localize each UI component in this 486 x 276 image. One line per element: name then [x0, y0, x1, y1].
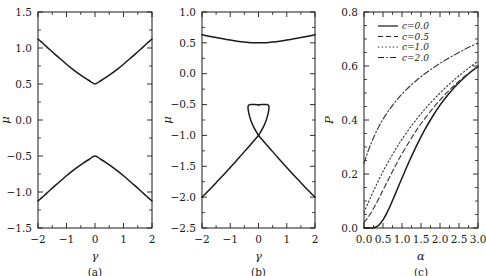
curve-c=0.5: [364, 67, 478, 223]
y-tick-label: 0.0: [15, 114, 32, 126]
y-tick-label: 1.0: [179, 6, 196, 18]
y-axis-label: μ: [0, 116, 12, 123]
x-tick-label: 0: [92, 233, 99, 245]
x-tick-label: −1: [223, 233, 238, 245]
y-tick-label: −0.5: [7, 150, 33, 162]
panel-label: (a): [88, 266, 102, 276]
plot-b: −2−1012−2.5−2.0−1.5−1.0−0.50.00.51.0γμ(b…: [160, 0, 322, 276]
curve-lower-branch: [38, 156, 152, 201]
panel-label: (b): [251, 266, 266, 276]
x-tick-label: 2.0: [432, 233, 449, 245]
y-tick-label: −2.0: [171, 191, 197, 203]
legend-label-c=2.0: c=2.0: [402, 53, 429, 63]
curve-upper-branch: [38, 39, 152, 84]
x-tick-label: −2: [194, 233, 209, 245]
curve-lower-arm-right: [259, 135, 316, 197]
panel-c: 0.00.51.01.52.02.53.00.00.20.40.60.8αP(c…: [322, 0, 486, 276]
figure-container: −2−1012−1.5−1.0−0.50.00.51.01.5γμ(a) −2−…: [0, 0, 486, 276]
y-tick-label: 1.0: [15, 42, 32, 54]
x-tick-label: 1.5: [413, 233, 430, 245]
x-tick-label: 3.0: [470, 233, 486, 245]
x-axis-label: α: [417, 249, 425, 263]
x-tick-label: 1: [283, 233, 290, 245]
curve-c=0.0: [364, 67, 478, 229]
x-axis-label: γ: [92, 249, 99, 263]
x-axis-label: γ: [255, 249, 262, 263]
y-tick-label: 0.0: [341, 222, 358, 234]
y-axis-label: P: [322, 116, 336, 125]
x-tick-label: 2: [312, 233, 319, 245]
panel-label: (c): [414, 266, 428, 276]
x-tick-label: 1.0: [394, 233, 411, 245]
legend-label-c=0.0: c=0.0: [402, 21, 429, 31]
x-tick-label: 2: [149, 233, 156, 245]
y-tick-label: −0.5: [171, 98, 197, 110]
plot-c: 0.00.51.01.52.02.53.00.00.20.40.60.8αP(c…: [322, 0, 486, 276]
y-tick-label: −1.0: [7, 186, 33, 198]
y-tick-label: 0.8: [341, 6, 358, 18]
curve-loop-upper-left: [248, 104, 259, 135]
x-tick-label: −2: [30, 233, 45, 245]
plot-a: −2−1012−1.5−1.0−0.50.00.51.01.5γμ(a): [0, 0, 160, 276]
y-tick-label: 0.6: [341, 60, 358, 72]
y-tick-label: 0.4: [341, 114, 358, 126]
x-tick-label: −1: [59, 233, 74, 245]
panel-b: −2−1012−2.5−2.0−1.5−1.0−0.50.00.51.0γμ(b…: [160, 0, 322, 276]
y-tick-label: 0.5: [179, 37, 196, 49]
curve-loop-upper-right: [259, 104, 270, 135]
x-tick-label: 2.5: [451, 233, 468, 245]
legend-label-c=0.5: c=0.5: [402, 32, 429, 42]
panel-a: −2−1012−1.5−1.0−0.50.00.51.01.5γμ(a): [0, 0, 160, 276]
y-tick-label: 1.5: [15, 6, 32, 18]
x-tick-label: 0.0: [356, 233, 373, 245]
x-tick-label: 0.5: [375, 233, 392, 245]
y-tick-label: 0.5: [15, 78, 32, 90]
x-tick-label: 0: [255, 233, 262, 245]
axes-frame: [38, 12, 152, 228]
x-tick-label: 1: [120, 233, 127, 245]
y-axis-label: μ: [160, 116, 174, 123]
axes-frame: [202, 12, 315, 228]
curve-lower-arm-left: [202, 135, 259, 197]
y-tick-label: −1.5: [7, 222, 33, 234]
y-tick-label: 0.0: [179, 67, 196, 79]
curve-upper-branch: [202, 35, 315, 43]
y-tick-label: −1.0: [171, 129, 197, 141]
legend-label-c=1.0: c=1.0: [402, 42, 429, 52]
y-tick-label: 0.2: [341, 168, 358, 180]
y-tick-label: −1.5: [171, 160, 197, 172]
y-tick-label: −2.5: [171, 222, 197, 234]
